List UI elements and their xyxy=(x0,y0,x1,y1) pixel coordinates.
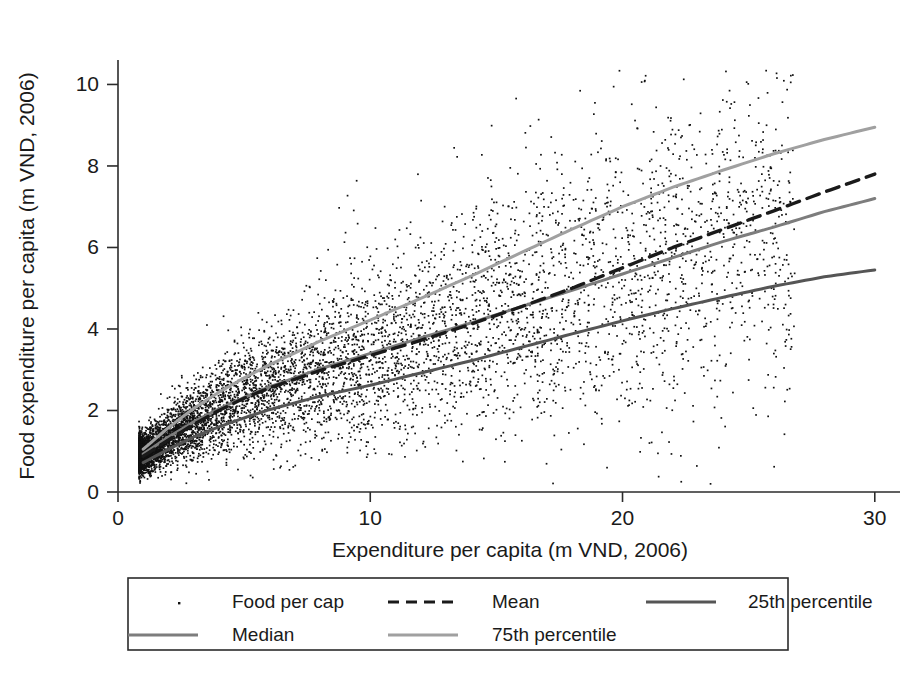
scatter-point xyxy=(659,364,661,366)
scatter-point xyxy=(302,332,304,334)
scatter-point xyxy=(640,294,642,296)
scatter-point xyxy=(290,340,292,342)
scatter-point xyxy=(712,193,714,195)
scatter-point xyxy=(159,460,161,462)
scatter-point xyxy=(631,367,633,369)
scatter-point xyxy=(580,292,582,294)
scatter-point xyxy=(218,436,220,438)
scatter-point xyxy=(235,369,237,371)
scatter-point xyxy=(597,223,599,225)
scatter-point xyxy=(202,376,204,378)
scatter-point xyxy=(360,306,362,308)
scatter-point xyxy=(564,275,566,277)
scatter-point xyxy=(410,326,412,328)
scatter-point xyxy=(691,167,693,169)
scatter-point xyxy=(446,275,448,277)
scatter-point xyxy=(442,343,444,345)
scatter-point xyxy=(471,343,473,345)
scatter-point xyxy=(496,224,498,226)
scatter-point xyxy=(723,219,725,221)
scatter-point xyxy=(287,398,289,400)
scatter-point xyxy=(513,343,515,345)
scatter-point xyxy=(373,307,375,309)
scatter-point xyxy=(405,330,407,332)
scatter-point xyxy=(327,249,329,251)
scatter-point xyxy=(141,452,143,454)
scatter-point xyxy=(679,310,681,312)
scatter-point xyxy=(152,430,154,432)
scatter-point xyxy=(191,447,193,449)
scatter-point xyxy=(406,313,408,315)
scatter-point xyxy=(615,237,617,239)
scatter-point xyxy=(243,347,245,349)
scatter-point xyxy=(543,372,545,374)
scatter-point xyxy=(705,325,707,327)
scatter-point xyxy=(328,371,330,373)
scatter-point xyxy=(614,325,616,327)
scatter-point xyxy=(175,452,177,454)
scatter-point xyxy=(200,392,202,394)
scatter-point xyxy=(245,406,247,408)
scatter-point xyxy=(197,396,199,398)
scatter-point xyxy=(309,441,311,443)
scatter-point xyxy=(468,264,470,266)
scatter-point xyxy=(200,377,202,379)
scatter-point xyxy=(469,356,471,358)
scatter-point xyxy=(282,354,284,356)
scatter-point xyxy=(146,469,148,471)
scatter-point xyxy=(215,444,217,446)
scatter-point xyxy=(260,397,262,399)
scatter-point xyxy=(225,360,227,362)
scatter-point xyxy=(767,266,769,268)
scatter-point xyxy=(487,404,489,406)
scatter-point xyxy=(465,341,467,343)
scatter-point xyxy=(331,327,333,329)
scatter-point xyxy=(148,467,150,469)
scatter-point xyxy=(705,261,707,263)
scatter-point xyxy=(206,324,208,326)
scatter-point xyxy=(214,364,216,366)
scatter-point xyxy=(676,224,678,226)
scatter-point xyxy=(456,297,458,299)
scatter-point xyxy=(236,369,238,371)
scatter-point xyxy=(551,192,553,194)
scatter-point xyxy=(618,282,620,284)
scatter-point xyxy=(148,456,150,458)
scatter-point xyxy=(515,230,517,232)
scatter-point xyxy=(226,375,228,377)
scatter-point xyxy=(199,449,201,451)
scatter-point xyxy=(319,360,321,362)
scatter-point xyxy=(308,410,310,412)
scatter-point xyxy=(773,353,775,355)
scatter-point xyxy=(301,351,303,353)
scatter-point xyxy=(166,415,168,417)
scatter-point xyxy=(608,333,610,335)
scatter-point xyxy=(562,298,564,300)
scatter-point xyxy=(293,334,295,336)
scatter-point xyxy=(502,406,504,408)
scatter-point xyxy=(345,232,347,234)
scatter-point xyxy=(269,434,271,436)
scatter-point xyxy=(710,483,712,485)
scatter-point xyxy=(429,281,431,283)
scatter-point xyxy=(501,345,503,347)
scatter-point xyxy=(704,255,706,257)
scatter-point xyxy=(519,327,521,329)
scatter-point xyxy=(537,332,539,334)
scatter-point xyxy=(675,194,677,196)
scatter-point xyxy=(541,317,543,319)
scatter-point xyxy=(419,344,421,346)
scatter-point xyxy=(302,413,304,415)
scatter-point xyxy=(437,382,439,384)
scatter-point xyxy=(379,396,381,398)
scatter-point xyxy=(338,312,340,314)
scatter-point xyxy=(449,342,451,344)
scatter-point xyxy=(220,394,222,396)
scatter-point xyxy=(408,364,410,366)
scatter-point xyxy=(399,326,401,328)
scatter-point xyxy=(398,373,400,375)
scatter-point xyxy=(310,379,312,381)
legend-label-75th-percentile: 75th percentile xyxy=(492,624,617,645)
scatter-point xyxy=(539,390,541,392)
scatter-point xyxy=(380,388,382,390)
